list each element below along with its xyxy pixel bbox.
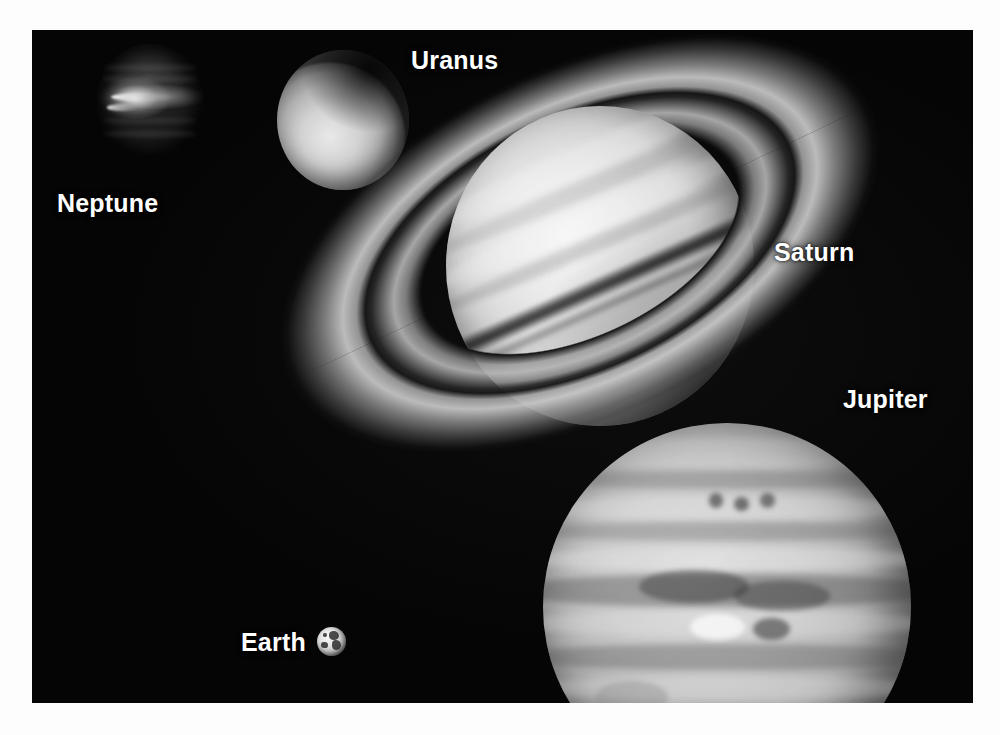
label-saturn: Saturn [774, 238, 854, 267]
earth-globe-icon [317, 627, 346, 656]
planet-montage-photo: Neptune Uranus Saturn Jupiter Earth [32, 30, 973, 703]
neptune-band-south2 [103, 131, 196, 137]
earth-landmass-4 [323, 633, 327, 638]
page-canvas: Neptune Uranus Saturn Jupiter Earth [0, 0, 1000, 735]
neptune-band-south [103, 118, 196, 124]
neptune-band-north2 [103, 76, 196, 82]
planet-neptune [97, 44, 203, 159]
label-earth: Earth [241, 628, 306, 657]
planet-jupiter [543, 423, 911, 703]
earth-landmass-1 [329, 631, 339, 640]
neptune-bright-streak-secondary [107, 104, 139, 111]
neptune-band-north [103, 65, 196, 71]
neptune-bright-streak [111, 93, 177, 101]
label-jupiter: Jupiter [843, 385, 928, 414]
earth-landmass-2 [332, 640, 341, 650]
label-neptune: Neptune [57, 189, 158, 218]
jupiter-limb-shading [543, 423, 911, 703]
earth-landmass-3 [321, 642, 328, 648]
label-uranus: Uranus [411, 46, 498, 75]
